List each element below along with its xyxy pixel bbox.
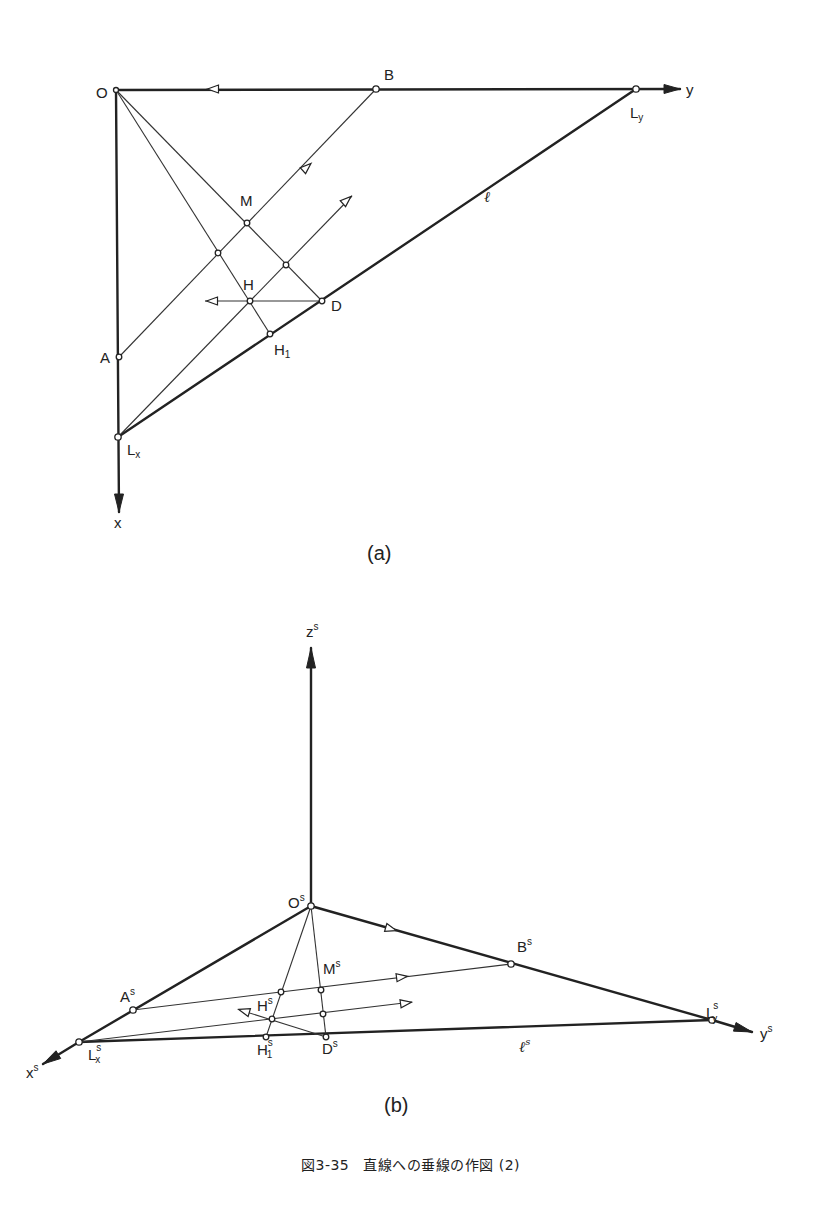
point-intersection-1: [215, 250, 221, 256]
label-Os: Os: [288, 892, 305, 911]
point-H: [247, 298, 253, 304]
point-A: [116, 354, 122, 360]
arrow-marker-Lxs-parallel: [400, 1000, 411, 1008]
arrow-marker-DH: [207, 297, 218, 305]
line-Lx-parallel: [118, 196, 352, 437]
figure-canvas: O B y Ly M ℓ H D H1 A Lx x (a) zs Os Bs …: [0, 0, 821, 1226]
label-ys-axis: ys: [760, 1023, 773, 1042]
line-l: [118, 89, 636, 437]
panel-b-diagram: [43, 648, 752, 1064]
point-intersection-b1: [278, 989, 284, 995]
label-Lx: Lx: [127, 441, 140, 460]
label-A: A: [100, 349, 110, 366]
label-Hs: Hs: [257, 995, 273, 1014]
point-M: [244, 220, 250, 226]
arrow-marker-AsBs: [396, 974, 407, 982]
label-H1s: Hs1: [257, 1037, 273, 1060]
panel-a-labels: O B y Ly M ℓ H D H1 A Lx x (a): [96, 66, 694, 564]
point-Lxs: [76, 1039, 82, 1045]
label-M: M: [240, 192, 253, 209]
point-Ds: [323, 1034, 329, 1040]
label-Bs: Bs: [517, 936, 532, 955]
figure-caption: 図3-35直線への垂線の作図 (2): [0, 1154, 821, 1174]
x-axis-arrowhead: [115, 494, 124, 512]
label-H: H: [243, 276, 254, 293]
point-D: [319, 298, 325, 304]
label-As: As: [120, 986, 135, 1005]
panel-a-diagram: [114, 85, 681, 513]
arrow-marker-DsHs: [239, 1009, 251, 1017]
label-Lxs: Lsx: [88, 1042, 101, 1065]
arrow-marker-OB: [208, 85, 219, 93]
point-Os: [308, 903, 314, 909]
point-Bs: [508, 961, 514, 967]
label-x-axis: x: [114, 514, 122, 531]
y-axis-arrowhead: [664, 85, 680, 94]
label-zs-axis: zs: [306, 621, 319, 640]
point-H1: [267, 331, 273, 337]
panel-b-labels: zs Os Bs Ms As Hs Lsy. ys xs Lsx Hs1 Ds …: [26, 621, 773, 1116]
label-Ms: Ms: [323, 958, 341, 977]
panel-a-sublabel: (a): [367, 542, 391, 564]
arrow-marker-OsBs: [385, 924, 397, 932]
point-Lx: [115, 434, 121, 440]
ys-axis-arrowhead: [733, 1023, 752, 1032]
label-line-ls: ℓs: [519, 1036, 530, 1056]
arrow-marker-AB: [300, 163, 311, 173]
label-Ly: Ly: [630, 104, 643, 123]
point-intersection-b2: [320, 1011, 326, 1017]
point-B: [373, 86, 379, 92]
xs-axis-arrowhead: [43, 1051, 61, 1064]
label-H1: H1: [274, 341, 291, 360]
x-axis: [116, 90, 119, 512]
arrow-marker-Lx-parallel: [340, 196, 351, 206]
figure-title: 直線への垂線の作図 (2): [363, 1157, 520, 1173]
label-Lys: Lsy.: [706, 1000, 719, 1024]
label-D: D: [331, 297, 342, 314]
y-axis: [116, 89, 680, 90]
label-line-l: ℓ: [484, 188, 490, 206]
line-O-D: [116, 90, 322, 301]
point-intersection-2: [283, 262, 289, 268]
point-Ly: [633, 86, 639, 92]
label-O: O: [96, 84, 108, 101]
panel-b-sublabel: (b): [384, 1094, 408, 1116]
zs-axis-arrowhead: [307, 648, 316, 668]
label-B: B: [384, 66, 394, 83]
point-O: [114, 88, 119, 93]
label-Ds: Ds: [322, 1038, 338, 1057]
point-Ms: [318, 987, 324, 993]
label-xs-axis: xs: [26, 1062, 39, 1081]
figure-number: 図3-35: [301, 1157, 349, 1173]
label-y-axis: y: [686, 81, 694, 98]
point-Hs: [269, 1016, 275, 1022]
point-As: [130, 1007, 136, 1013]
line-O-H1: [116, 90, 270, 334]
